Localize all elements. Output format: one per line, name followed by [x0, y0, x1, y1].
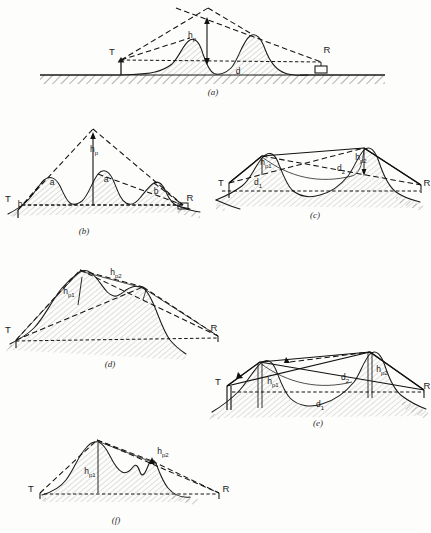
panel-b-label-a-left: a — [50, 177, 55, 187]
panel-e-label-d1: d1 — [316, 399, 325, 410]
panel-d: T R hp1 hp2 (d) — [5, 267, 218, 369]
panel-e-terrain — [208, 352, 428, 424]
panel-e-caption: (e) — [313, 418, 323, 428]
panel-b-label-b-right: b — [154, 186, 159, 196]
panel-c-label-R: R — [424, 177, 431, 188]
panel-b-label-hp: hp — [90, 144, 99, 155]
panel-f-label-R: R — [223, 483, 230, 494]
panel-f-label-hp2: hp2 — [157, 446, 169, 457]
panel-a-label-R: R — [324, 44, 331, 55]
panel-a: T R hp d (a) — [40, 8, 385, 97]
panel-d-terrain — [6, 270, 186, 360]
panel-b-caption: (b) — [79, 226, 90, 236]
panel-c-label-d2: d2 — [337, 163, 346, 174]
panel-a-caption: (a) — [208, 87, 219, 97]
panel-f-label-T: T — [28, 483, 34, 494]
panel-f: T R hp1 hp2 (f) — [28, 440, 229, 525]
panel-a-label-d: d — [236, 66, 241, 76]
panel-c-caption: (c) — [310, 210, 320, 220]
panel-d-label-R: R — [211, 322, 218, 333]
panel-b-label-T: T — [5, 193, 11, 204]
panel-d-label-T: T — [5, 324, 11, 335]
panel-e-label-R: R — [424, 380, 431, 391]
panel-b-label-a-right: a — [104, 174, 109, 184]
panel-e: T R hp1 hp2 d1 d2 (e) — [208, 352, 431, 428]
panel-a-label-hp: hp — [188, 30, 197, 41]
panel-b-label-b-left: b — [18, 199, 23, 209]
panel-c-label-T: T — [218, 177, 224, 188]
panel-d-caption: (d) — [105, 359, 116, 369]
panel-d-label-hp2: hp2 — [110, 267, 122, 278]
panel-c: T R hp1 d1 hp2 d2 (c) — [216, 148, 431, 220]
terrain-propagation-figure: T R hp d (a) — [0, 0, 431, 533]
panel-a-rays — [121, 8, 321, 62]
panel-a-receiver — [315, 62, 327, 73]
panel-e-label-T: T — [215, 376, 221, 387]
panel-a-label-T: T — [109, 46, 115, 57]
panel-e-label-d2: d2 — [341, 372, 350, 383]
panel-a-terrain — [132, 35, 308, 76]
panel-b: T R hp a a b b (b) — [4, 129, 200, 236]
panel-a-hp-measure — [204, 17, 210, 65]
panel-f-caption: (f) — [112, 515, 121, 525]
panel-b-label-R: R — [187, 192, 194, 203]
